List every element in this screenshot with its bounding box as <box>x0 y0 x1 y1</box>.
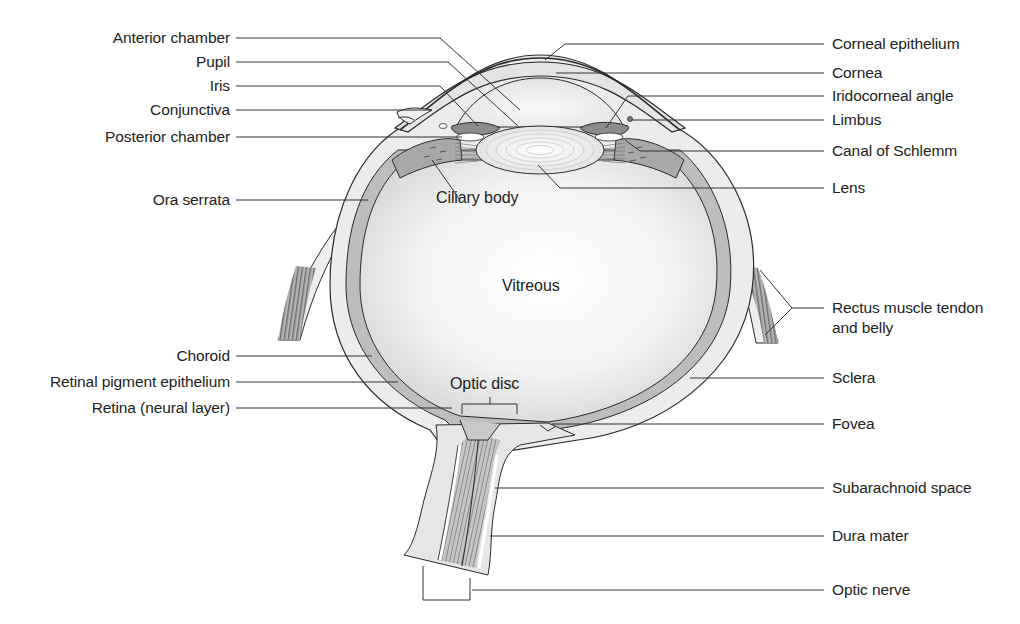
label-dura-mater: Dura mater <box>832 527 909 545</box>
label-sclera: Sclera <box>832 369 875 387</box>
optic-nerve-bracket <box>423 566 470 600</box>
label-iridocorneal-angle: Iridocorneal angle <box>832 87 953 105</box>
label-retinal-pigment-epithelium: Retinal pigment epithelium <box>50 373 230 391</box>
posterior-chamber-right <box>595 133 623 141</box>
label-pupil: Pupil <box>196 53 230 71</box>
eye-diagram: Anterior chamber Pupil Iris Conjunctiva … <box>0 0 1020 624</box>
label-posterior-chamber: Posterior chamber <box>105 128 230 146</box>
label-anterior-chamber: Anterior chamber <box>113 29 230 47</box>
label-retina-neural-layer: Retina (neural layer) <box>92 399 230 417</box>
label-canal-of-schlemm: Canal of Schlemm <box>832 142 957 160</box>
label-fovea: Fovea <box>832 415 875 433</box>
label-cornea: Cornea <box>832 64 882 82</box>
label-ciliary-body: Ciliary body <box>436 189 518 207</box>
label-ora-serrata: Ora serrata <box>153 191 230 209</box>
label-iris: Iris <box>210 77 230 95</box>
label-lens: Lens <box>832 179 865 197</box>
label-optic-disc: Optic disc <box>450 375 519 393</box>
label-corneal-epithelium: Corneal epithelium <box>832 35 959 53</box>
label-rectus-muscle-line2: and belly <box>832 319 893 337</box>
label-limbus: Limbus <box>832 111 881 129</box>
label-choroid: Choroid <box>176 347 230 365</box>
label-subarachnoid-space: Subarachnoid space <box>832 479 972 497</box>
label-rectus-muscle-line1: Rectus muscle tendon <box>832 299 983 317</box>
label-conjunctiva: Conjunctiva <box>150 101 230 119</box>
label-vitreous: Vitreous <box>502 277 560 295</box>
label-optic-nerve: Optic nerve <box>832 581 910 599</box>
